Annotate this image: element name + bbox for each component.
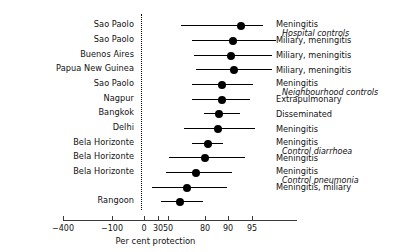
point-estimate-marker <box>237 22 245 30</box>
x-axis-tick-label: −400 <box>52 224 74 233</box>
x-axis-title: Per cent protection <box>0 236 401 246</box>
point-estimate-marker <box>176 198 184 206</box>
outcome-label-main: Meningitis <box>276 78 318 88</box>
outcome-label-main: Meningitis <box>276 153 318 163</box>
confidence-interval-bar <box>181 25 263 26</box>
x-axis-tick-label: 0 <box>141 224 146 233</box>
outcome-label: Extrapulmonary <box>276 95 401 104</box>
point-estimate-marker <box>183 184 191 192</box>
point-estimate-marker <box>230 66 238 74</box>
x-axis-tick-label: 90 <box>223 224 233 233</box>
outcome-label: Meningitis, miliary <box>276 183 401 192</box>
x-axis-tick <box>228 216 229 221</box>
x-axis-tick-label: 80 <box>200 224 210 233</box>
outcome-label: Miliary, meningitis <box>276 66 401 75</box>
outcome-label-main: Disseminated <box>276 109 332 119</box>
forest-plot: Sao PaoloSao PaoloBuenos AiresPapua New … <box>0 0 401 252</box>
x-axis-title-text: Per cent protection <box>116 236 196 246</box>
point-estimate-marker <box>204 140 212 148</box>
x-axis-tick <box>63 216 64 221</box>
outcome-label: Miliary, meningitis <box>276 36 401 45</box>
point-estimate-marker <box>218 81 226 89</box>
x-axis-tick <box>168 216 169 221</box>
outcome-label-main: Extrapulmonary <box>276 94 342 104</box>
x-axis-tick <box>144 216 145 221</box>
x-axis-tick <box>158 216 159 221</box>
x-axis-tick <box>252 216 253 221</box>
outcome-label-main: Meningitis <box>276 166 318 176</box>
point-estimate-marker <box>215 110 223 118</box>
x-axis: Per cent protection −400−10003050809095 <box>0 216 401 252</box>
point-estimate-marker <box>218 96 226 104</box>
outcome-label-main: Miliary, meningitis <box>276 50 351 60</box>
x-axis-line <box>63 220 297 221</box>
point-estimate-marker <box>214 125 222 133</box>
x-axis-tick <box>112 216 113 221</box>
x-axis-tick <box>205 216 206 221</box>
outcome-label-column: MeningitisHospital controlsMiliary, meni… <box>276 0 401 212</box>
point-estimate-marker <box>201 154 209 162</box>
x-axis-tick-label: 30 <box>153 224 163 233</box>
point-estimate-marker <box>192 169 200 177</box>
x-axis-tick-label: 50 <box>163 224 173 233</box>
x-axis-tick-label: −100 <box>101 224 123 233</box>
outcome-label: Meningitis <box>276 154 401 163</box>
outcome-label-main: Miliary, meningitis <box>276 35 351 45</box>
point-estimate-marker <box>227 52 235 60</box>
outcome-label: Miliary, meningitis <box>276 51 401 60</box>
outcome-label-main: Meningitis <box>276 124 318 134</box>
outcome-label: Disseminated <box>276 110 401 119</box>
outcome-label-main: Meningitis <box>276 137 318 147</box>
outcome-label-main: Meningitis, miliary <box>276 182 351 192</box>
point-estimate-marker <box>229 37 237 45</box>
outcome-label: Meningitis <box>276 125 401 134</box>
outcome-label-main: Meningitis <box>276 19 318 29</box>
outcome-label-main: Miliary, meningitis <box>276 65 351 75</box>
x-axis-tick-label: 95 <box>247 224 257 233</box>
